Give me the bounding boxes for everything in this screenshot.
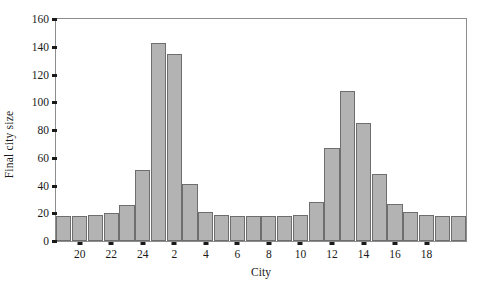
x-axis-tick-label: 18 (421, 248, 433, 260)
bar (198, 212, 213, 241)
x-axis-tick-mark (329, 242, 334, 245)
y-axis-tick-label: 120 (32, 69, 49, 81)
y-axis-tick-mark (52, 46, 57, 49)
x-axis-tick-mark (393, 242, 398, 245)
bar (324, 148, 339, 241)
y-axis-tick-label: 160 (32, 13, 49, 25)
y-axis-tick-label: 40 (38, 180, 50, 192)
bar (419, 215, 434, 241)
y-axis-tick-mark (52, 129, 57, 132)
x-axis-tick-label: 16 (389, 248, 401, 260)
x-axis-tick-label: 8 (266, 248, 272, 260)
bar (119, 205, 134, 241)
bar (104, 213, 119, 241)
bar (72, 216, 87, 241)
x-axis-tick-label: 6 (234, 248, 240, 260)
x-axis-tick-label: 10 (295, 248, 307, 260)
bar (435, 216, 450, 241)
x-axis-tick-mark (298, 242, 303, 245)
y-axis-tick-mark (52, 101, 57, 104)
bar (246, 216, 261, 241)
x-axis-tick-mark (109, 242, 114, 245)
x-axis-tick-mark (235, 242, 240, 245)
bar (451, 216, 466, 241)
bar (88, 215, 103, 241)
y-axis-tick-label: 20 (38, 207, 50, 219)
bar (214, 215, 229, 241)
x-axis-tick-mark (140, 242, 145, 245)
x-axis-tick-label: 20 (74, 248, 86, 260)
y-axis-tick-label: 80 (38, 124, 50, 136)
y-axis-tick-label: 140 (32, 41, 49, 53)
x-axis-label: City (55, 266, 467, 278)
x-axis-tick-mark (172, 242, 177, 245)
bar (340, 91, 355, 241)
bar (151, 43, 166, 241)
bar (309, 202, 324, 241)
bar (372, 174, 387, 241)
y-axis-tick-mark (52, 74, 57, 77)
bar (293, 215, 308, 241)
x-axis-tick-label: 12 (326, 248, 338, 260)
y-axis-tick-mark (52, 185, 57, 188)
y-axis-tick-mark (52, 212, 57, 215)
y-axis-tick-label: 60 (38, 152, 50, 164)
bar (135, 170, 150, 241)
y-axis-label: Final city size (0, 0, 18, 289)
bar (182, 184, 197, 241)
x-axis-tick-label: 24 (137, 248, 149, 260)
bar (167, 54, 182, 241)
x-axis-tick-label: 14 (358, 248, 370, 260)
bar (56, 216, 71, 241)
x-axis-tick-mark (203, 242, 208, 245)
bar-series (56, 19, 466, 241)
y-axis-tick-mark (52, 157, 57, 160)
y-axis-tick-mark (52, 18, 57, 21)
chart-figure: Final city size 020406080100120140160202… (0, 0, 477, 289)
x-axis-tick-label: 2 (171, 248, 177, 260)
y-axis-tick-mark (52, 240, 57, 243)
x-axis-tick-label: 4 (203, 248, 209, 260)
y-axis-tick-label: 100 (32, 96, 49, 108)
x-axis-tick-mark (361, 242, 366, 245)
plot-area: 0204060801001201401602022242468101214161… (55, 18, 467, 242)
y-axis-tick-label: 0 (43, 235, 49, 247)
bar (387, 204, 402, 241)
x-axis-tick-mark (266, 242, 271, 245)
bar (356, 123, 371, 241)
x-axis-tick-mark (77, 242, 82, 245)
x-axis-tick-label: 22 (105, 248, 117, 260)
bar (277, 216, 292, 241)
x-axis-tick-mark (424, 242, 429, 245)
bar (403, 212, 418, 241)
bar (261, 216, 276, 241)
bar (230, 216, 245, 241)
